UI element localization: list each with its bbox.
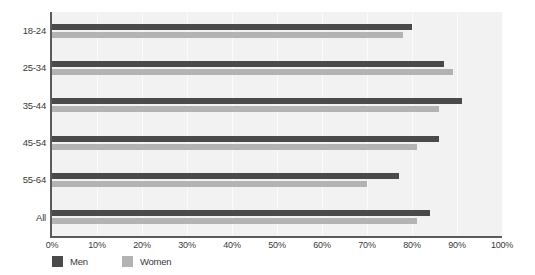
y-axis-line [50,12,52,236]
x-axis-tick-label: 10% [88,240,105,250]
legend-item-women[interactable]: Women [122,256,172,267]
bar-men [52,210,430,216]
y-axis-tick-label: All [0,199,46,236]
x-axis-tick-label: 70% [358,240,375,250]
bar-group [52,161,502,198]
y-axis-tick-label: 45-54 [0,124,46,161]
legend-item-men[interactable]: Men [52,256,88,267]
bar-groups [52,12,502,236]
bar-men [52,173,399,179]
plot-area [52,12,502,236]
legend-swatch-icon [122,256,133,267]
x-axis-tick-label: 100% [491,240,513,250]
bar-women [52,218,417,224]
x-axis-tick-labels: 0%10%20%30%40%50%60%70%80%90%100% [52,240,502,254]
y-axis-tick-label: 55-64 [0,161,46,198]
bar-women [52,69,453,75]
bar-women [52,106,439,112]
bar-men [52,61,444,67]
legend-label: Women [140,256,172,267]
bar-men [52,24,412,30]
y-axis-tick-label: 35-44 [0,87,46,124]
x-axis-tick-label: 20% [133,240,150,250]
y-axis-tick-label: 25-34 [0,49,46,86]
bar-men [52,98,462,104]
bar-group [52,124,502,161]
x-axis-tick-label: 80% [403,240,420,250]
bar-women [52,144,417,150]
legend-label: Men [70,256,88,267]
bar-group [52,12,502,49]
bar-group [52,199,502,236]
x-axis-tick-label: 0% [46,240,59,250]
y-axis-tick-label: 18-24 [0,12,46,49]
x-axis-tick-label: 60% [313,240,330,250]
legend-swatch-icon [52,256,63,267]
bar-women [52,32,403,38]
x-axis-tick-label: 40% [223,240,240,250]
chart-legend: MenWomen [52,256,171,267]
y-axis-category-labels: 18-2425-3435-4445-5455-64All [0,12,46,236]
gridline [502,12,503,236]
x-axis-tick-label: 30% [178,240,195,250]
x-axis-line [50,236,502,238]
bar-group [52,49,502,86]
bar-group [52,87,502,124]
bar-women [52,181,367,187]
x-axis-tick-label: 50% [268,240,285,250]
x-axis-tick-label: 90% [448,240,465,250]
bar-men [52,136,439,142]
bar-chart: 18-2425-3435-4445-5455-64All 0%10%20%30%… [0,0,535,275]
